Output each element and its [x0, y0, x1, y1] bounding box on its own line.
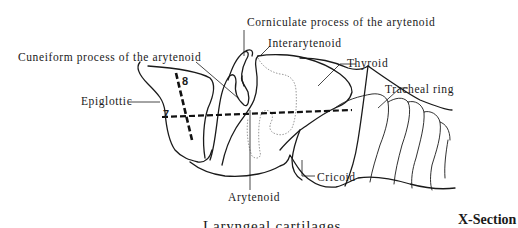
cricoid-outline: [292, 130, 302, 180]
label-tracheal-ring: Tracheal ring: [385, 84, 454, 96]
thyroid-front-edge: [345, 66, 368, 186]
epiglottis-top-edge: [148, 66, 214, 158]
leader-cuneiform: [196, 62, 238, 98]
arytenoid-inner-body: [222, 56, 258, 165]
label-arytenoid: Arytenoid: [228, 192, 280, 204]
label-epiglottic: Epiglottic: [81, 96, 132, 108]
label-interarytenoid: Interarytenoid: [268, 38, 342, 50]
diagram-title: Laryngeal cartilages: [203, 219, 341, 228]
tracheal-ring-4: [424, 111, 440, 190]
tracheal-ring-6: [445, 140, 448, 178]
arytenoid-hidden-outline: [247, 58, 296, 158]
label-corniculate-process: Corniculate process of the arytenoid: [247, 17, 435, 29]
label-cuneiform-process: Cuneiform process of the arytenoid: [18, 52, 201, 64]
section-line-7: [162, 110, 352, 117]
tracheal-ring-1: [335, 94, 389, 182]
corniculate-process-outline: [228, 50, 253, 86]
tracheal-ring-5: [440, 122, 450, 140]
arytenoid-top-contour: [258, 55, 352, 150]
epiglottic-cartilage-outline: [138, 62, 212, 162]
label-thyroid: Thyroid: [347, 58, 388, 70]
section-number-7: 7: [163, 109, 169, 120]
tracheal-ring-2: [388, 98, 410, 184]
label-cricoid: Cricoid: [317, 172, 356, 184]
x-section-label: X-Section: [458, 213, 516, 227]
tracheal-ring-3: [408, 101, 424, 188]
leader-cricoid: [302, 160, 315, 176]
section-number-8: 8: [182, 76, 188, 87]
